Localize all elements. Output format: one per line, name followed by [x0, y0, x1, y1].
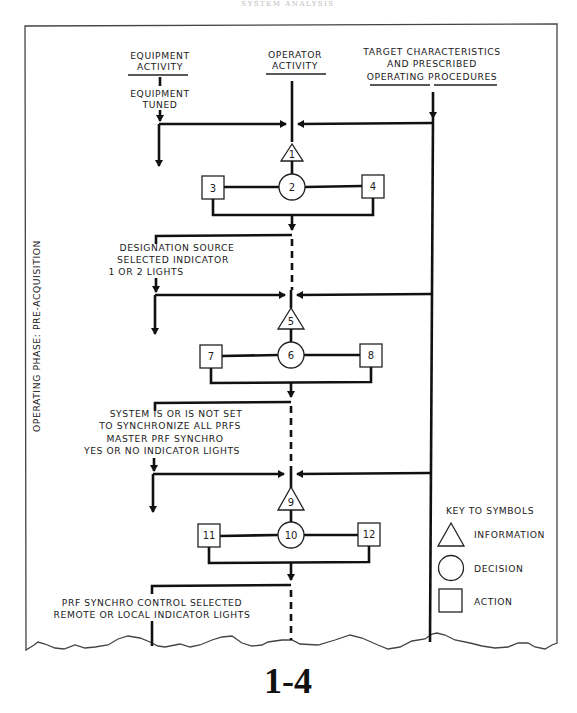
equipment-state-2: DESIGNATION SOURCE: [119, 242, 234, 253]
column-header-equipment: EQUIPMENT ACTIVITY: [128, 50, 190, 75]
feedback-to-equipment: [152, 585, 291, 594]
target-to-operator-arrow: [298, 123, 433, 124]
information-node-5: 5: [278, 308, 304, 329]
svg-text:MASTER PRF SYNCHRO: MASTER PRF SYNCHRO: [107, 433, 224, 444]
action-merge: [211, 367, 371, 383]
information-node-1: 1: [281, 144, 303, 161]
target-line: [430, 118, 433, 642]
connector: [222, 355, 278, 356]
svg-text:OPERATING PROCEDURES: OPERATING PROCEDURES: [367, 71, 498, 82]
svg-text:TUNED: TUNED: [141, 99, 177, 110]
action-node-11: 11: [198, 524, 220, 547]
equipment-state-4: PRF SYNCHRO CONTROL SELECTED: [62, 597, 242, 608]
svg-text:EQUIPMENT: EQUIPMENT: [130, 50, 190, 61]
phase-label: OPERATING PHASE: PRE-ACQUISITION: [31, 240, 42, 432]
svg-text:TO SYNCHRONIZE ALL PRFS: TO SYNCHRONIZE ALL PRFS: [98, 420, 241, 431]
svg-text:YES OR NO INDICATOR LIGHTS: YES OR NO INDICATOR LIGHTS: [83, 445, 240, 456]
svg-text:7: 7: [208, 351, 214, 362]
svg-text:AND PRESCRIBED: AND PRESCRIBED: [387, 58, 477, 69]
running-header: SYSTEM ANALYSIS: [241, 0, 334, 8]
svg-text:1 OR 2 LIGHTS: 1 OR 2 LIGHTS: [108, 266, 183, 277]
legend: KEY TO SYMBOLS INFORMATION DECISION ACTI…: [438, 505, 545, 612]
legend-label-decision: DECISION: [474, 563, 523, 574]
legend-label-information: INFORMATION: [474, 529, 545, 540]
column-header-target: TARGET CHARACTERISTICS AND PRESCRIBED OP…: [362, 46, 500, 85]
equipment-state-3: SYSTEM IS OR IS NOT SET: [110, 408, 243, 419]
action-node-7: 7: [200, 345, 222, 368]
legend-label-action: ACTION: [474, 596, 513, 607]
target-to-operator-arrow: [297, 294, 432, 295]
svg-text:9: 9: [288, 497, 294, 508]
circle-icon: [439, 556, 464, 581]
svg-text:10: 10: [285, 530, 298, 541]
decision-node-2: 2: [279, 174, 305, 200]
action-node-12: 12: [358, 523, 380, 546]
action-node-3: 3: [202, 176, 224, 199]
column-header-operator: OPERATOR ACTIVITY: [266, 49, 326, 74]
connector: [305, 186, 362, 187]
svg-text:11: 11: [203, 530, 216, 541]
svg-text:2: 2: [289, 182, 295, 193]
svg-text:1: 1: [289, 149, 295, 160]
svg-text:REMOTE OR LOCAL INDICATOR LIGH: REMOTE OR LOCAL INDICATOR LIGHTS: [54, 609, 251, 620]
svg-text:ACTIVITY: ACTIVITY: [137, 61, 183, 72]
equipment-state-1: EQUIPMENT: [130, 88, 190, 99]
svg-text:OPERATOR: OPERATOR: [268, 49, 322, 60]
svg-text:8: 8: [368, 350, 374, 361]
svg-text:TARGET CHARACTERISTICS: TARGET CHARACTERISTICS: [362, 46, 500, 57]
svg-text:SELECTED INDICATOR: SELECTED INDICATOR: [117, 254, 229, 265]
legend-title: KEY TO SYMBOLS: [446, 505, 534, 516]
action-node-4: 4: [362, 175, 384, 198]
svg-text:ACTIVITY: ACTIVITY: [272, 60, 318, 71]
svg-text:6: 6: [288, 350, 294, 361]
svg-text:3: 3: [210, 183, 216, 194]
information-node-9: 9: [278, 487, 304, 510]
svg-text:12: 12: [363, 529, 376, 540]
target-to-operator-arrow: [297, 473, 430, 474]
action-node-8: 8: [360, 344, 382, 367]
decision-node-6: 6: [278, 342, 304, 368]
decision-node-10: 10: [278, 522, 304, 548]
page-number: 1-4: [264, 661, 312, 701]
svg-text:5: 5: [288, 316, 294, 327]
svg-text:4: 4: [370, 181, 376, 192]
flow-diagram: SYSTEM ANALYSIS EQUIPMENT ACTIVITY OPERA…: [0, 0, 577, 713]
square-icon: [439, 589, 462, 612]
action-merge: [209, 546, 369, 563]
triangle-icon: [438, 523, 464, 546]
connector: [220, 535, 278, 536]
